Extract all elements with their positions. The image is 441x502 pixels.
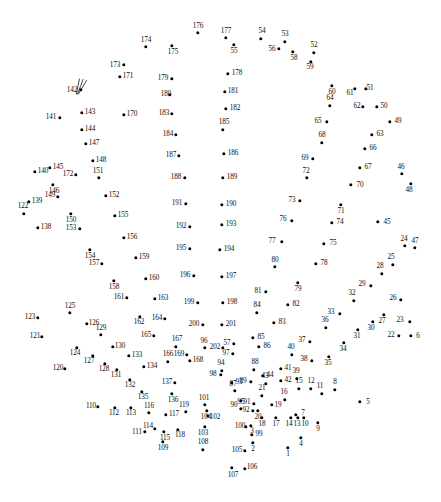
dot-96[interactable]: [203, 346, 206, 349]
dot-108[interactable]: [201, 448, 204, 451]
dot-11[interactable]: [320, 392, 323, 395]
dot-137[interactable]: [173, 381, 176, 384]
dot-22[interactable]: [397, 334, 400, 337]
dot-197[interactable]: [220, 275, 223, 278]
dot-15[interactable]: [297, 387, 300, 390]
dot-103[interactable]: [203, 425, 206, 428]
dot-161[interactable]: [125, 296, 128, 299]
dot-163[interactable]: [153, 297, 156, 300]
dot-122[interactable]: [22, 212, 25, 215]
dot-28[interactable]: [380, 272, 383, 275]
dot-107[interactable]: [230, 466, 233, 469]
dot-152[interactable]: [104, 194, 107, 197]
dot-60[interactable]: [330, 84, 333, 87]
dot-30[interactable]: [371, 320, 374, 323]
dot-156[interactable]: [122, 236, 125, 239]
dot-154[interactable]: [88, 248, 91, 251]
dot-159[interactable]: [134, 256, 137, 259]
dot-10[interactable]: [302, 416, 305, 419]
dot-55[interactable]: [232, 43, 235, 46]
dot-16[interactable]: [283, 398, 286, 401]
dot-21[interactable]: [260, 394, 263, 397]
dot-67[interactable]: [358, 166, 361, 169]
dot-81[interactable]: [264, 290, 267, 293]
dot-201[interactable]: [220, 323, 223, 326]
dot-12[interactable]: [309, 387, 312, 390]
dot-146[interactable]: [51, 183, 54, 186]
dot-52[interactable]: [312, 51, 315, 54]
dot-38[interactable]: [310, 359, 313, 362]
dot-101[interactable]: [203, 403, 206, 406]
dot-2[interactable]: [251, 441, 254, 444]
dot-72[interactable]: [305, 176, 308, 179]
dot-110[interactable]: [96, 405, 99, 408]
dot-119[interactable]: [184, 410, 187, 413]
dot-97[interactable]: [231, 352, 234, 355]
dot-200[interactable]: [201, 323, 204, 326]
dot-37[interactable]: [308, 340, 311, 343]
dot-75[interactable]: [322, 242, 325, 245]
dot-190[interactable]: [220, 203, 223, 206]
dot-88[interactable]: [252, 368, 255, 371]
dot-84[interactable]: [255, 311, 258, 314]
dot-25[interactable]: [391, 263, 394, 266]
dot-155[interactable]: [113, 214, 116, 217]
dot-115[interactable]: [162, 430, 165, 433]
dot-111[interactable]: [143, 430, 146, 433]
dot-194[interactable]: [218, 248, 221, 251]
dot-182[interactable]: [224, 107, 227, 110]
dot-98[interactable]: [219, 373, 222, 376]
dot-117[interactable]: [164, 413, 167, 416]
dot-91[interactable]: [252, 402, 255, 405]
dot-27[interactable]: [382, 313, 385, 316]
dot-173[interactable]: [122, 63, 125, 66]
dot-164[interactable]: [163, 317, 166, 320]
dot-99[interactable]: [250, 433, 253, 436]
dot-157[interactable]: [100, 262, 103, 265]
dot-79[interactable]: [296, 281, 299, 284]
dot-170[interactable]: [122, 113, 125, 116]
dot-142[interactable]: [79, 88, 82, 91]
dot-138[interactable]: [36, 226, 39, 229]
dot-199[interactable]: [196, 301, 199, 304]
dot-56[interactable]: [277, 47, 280, 50]
dot-73[interactable]: [298, 199, 301, 202]
dot-148[interactable]: [91, 159, 94, 162]
dot-77[interactable]: [280, 240, 283, 243]
dot-174[interactable]: [144, 45, 147, 48]
dot-143[interactable]: [80, 111, 83, 114]
dot-4[interactable]: [299, 436, 302, 439]
dot-187[interactable]: [177, 154, 180, 157]
dot-13[interactable]: [296, 416, 299, 419]
dot-82[interactable]: [286, 303, 289, 306]
dot-20[interactable]: [256, 409, 259, 412]
dot-92[interactable]: [251, 409, 254, 412]
dot-34[interactable]: [342, 341, 345, 344]
dot-45[interactable]: [376, 220, 379, 223]
dot-177[interactable]: [224, 36, 227, 39]
dot-6[interactable]: [409, 334, 412, 337]
dot-46[interactable]: [400, 172, 403, 175]
dot-63[interactable]: [370, 133, 373, 136]
dot-191[interactable]: [184, 202, 187, 205]
dot-85[interactable]: [251, 336, 254, 339]
dot-64[interactable]: [328, 104, 331, 107]
dot-53[interactable]: [283, 40, 286, 43]
dot-139[interactable]: [27, 200, 30, 203]
dot-195[interactable]: [188, 247, 191, 250]
dot-134[interactable]: [142, 365, 145, 368]
dot-165[interactable]: [152, 334, 155, 337]
dot-186[interactable]: [222, 152, 225, 155]
dot-198[interactable]: [221, 301, 224, 304]
dot-42[interactable]: [279, 379, 282, 382]
dot-83[interactable]: [272, 321, 275, 324]
dot-183[interactable]: [170, 112, 173, 115]
dot-8[interactable]: [333, 388, 336, 391]
dot-169[interactable]: [185, 353, 188, 356]
dot-31[interactable]: [356, 328, 359, 331]
dot-9[interactable]: [316, 421, 319, 424]
dot-14[interactable]: [289, 416, 292, 419]
dot-172[interactable]: [74, 173, 77, 176]
dot-68[interactable]: [320, 141, 323, 144]
dot-125[interactable]: [68, 311, 71, 314]
